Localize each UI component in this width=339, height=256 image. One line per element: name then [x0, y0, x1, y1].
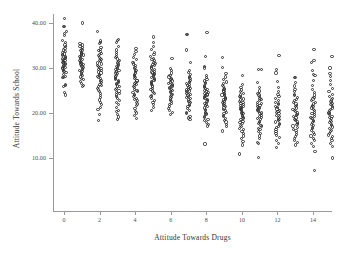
data-point: [98, 74, 101, 77]
data-point: [221, 66, 224, 69]
data-point: [114, 71, 117, 74]
data-point: [97, 88, 100, 91]
data-point: [133, 88, 136, 91]
data-point: [149, 95, 152, 98]
data-point: [79, 57, 82, 60]
data-point: [63, 59, 66, 62]
data-point: [311, 126, 314, 129]
data-point: [169, 90, 172, 93]
data-point: [153, 64, 156, 67]
data-point: [313, 111, 316, 114]
data-point: [259, 124, 262, 127]
data-point: [186, 93, 189, 96]
data-point: [115, 110, 118, 113]
data-point: [168, 86, 171, 89]
data-point: [223, 93, 226, 96]
data-point: [170, 96, 173, 99]
data-point: [275, 126, 278, 129]
data-point: [97, 54, 100, 57]
data-point: [256, 105, 259, 108]
data-point: [116, 57, 119, 60]
data-point: [117, 60, 120, 63]
data-point: [150, 76, 153, 79]
data-point: [258, 121, 261, 124]
data-point: [224, 109, 227, 112]
data-point: [221, 101, 224, 104]
data-point: [331, 93, 334, 96]
data-point: [64, 62, 67, 65]
data-point: [203, 79, 206, 82]
data-point: [294, 81, 297, 84]
data-point: [330, 120, 333, 123]
data-point: [188, 89, 191, 92]
data-point: [257, 107, 260, 110]
data-point: [330, 139, 333, 142]
data-point: [64, 71, 67, 74]
data-point: [81, 74, 84, 77]
data-point: [135, 58, 138, 61]
data-point: [256, 109, 259, 112]
data-point: [82, 78, 85, 81]
data-point: [116, 118, 119, 121]
data-point: [98, 113, 101, 116]
data-point: [313, 139, 316, 142]
data-point: [294, 110, 297, 113]
data-point: [257, 68, 260, 71]
data-point: [116, 61, 119, 64]
data-point: [331, 87, 334, 90]
data-point: [98, 66, 101, 69]
data-point: [328, 66, 331, 69]
data-point: [238, 121, 241, 124]
data-point: [224, 96, 227, 99]
data-point: [222, 114, 225, 117]
data-point: [117, 115, 120, 118]
data-point: [328, 109, 331, 112]
data-point: [132, 85, 135, 88]
data-point: [64, 45, 67, 48]
data-point: [274, 105, 277, 108]
data-point: [170, 71, 173, 74]
data-point: [256, 108, 259, 111]
data-point: [150, 82, 153, 85]
data-point: [224, 97, 227, 100]
data-point: [134, 69, 137, 72]
data-point: [222, 89, 225, 92]
data-point: [185, 96, 188, 99]
data-point: [221, 129, 224, 132]
data-point: [80, 51, 83, 54]
data-point: [277, 102, 280, 105]
data-point: [135, 79, 138, 82]
data-point: [258, 89, 261, 92]
data-point: [223, 119, 226, 122]
data-point: [205, 78, 208, 81]
data-point: [204, 109, 207, 112]
data-point: [277, 125, 280, 128]
data-point: [61, 53, 64, 56]
data-point: [329, 79, 332, 82]
data-point: [275, 107, 278, 110]
data-point: [133, 53, 136, 56]
data-point: [152, 103, 155, 106]
x-tick-mark: [100, 211, 101, 215]
data-point: [296, 96, 299, 99]
data-point: [169, 80, 172, 83]
data-point: [78, 59, 81, 62]
data-point: [168, 74, 171, 77]
data-point: [225, 123, 228, 126]
data-point: [78, 55, 81, 58]
data-point: [61, 57, 64, 60]
data-point: [206, 124, 209, 127]
data-point: [188, 75, 191, 78]
data-point: [239, 96, 242, 99]
data-point: [331, 135, 334, 138]
data-point: [312, 137, 315, 140]
data-point: [167, 107, 170, 110]
data-point: [150, 66, 153, 69]
data-point: [278, 122, 281, 125]
data-point: [242, 97, 245, 100]
data-point: [132, 62, 135, 65]
data-point: [132, 56, 135, 59]
data-point: [242, 132, 245, 135]
data-point: [152, 41, 155, 44]
data-point: [169, 113, 172, 116]
